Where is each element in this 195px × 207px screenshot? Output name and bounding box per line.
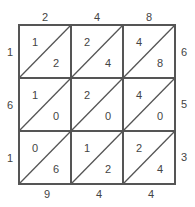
cell-tens: 2 xyxy=(133,142,145,154)
top-digit: 4 xyxy=(90,11,104,23)
cell-ones: 0 xyxy=(102,110,114,122)
cell-tens: 1 xyxy=(29,89,41,101)
top-digit: 2 xyxy=(38,11,52,23)
right-digit: 6 xyxy=(177,46,191,58)
cell-ones: 4 xyxy=(102,57,114,69)
right-digit: 3 xyxy=(177,151,191,163)
left-digit: 6 xyxy=(3,99,17,111)
cell-tens: 4 xyxy=(133,36,145,48)
cell-ones: 4 xyxy=(154,163,166,175)
cell-ones: 2 xyxy=(102,163,114,175)
cell-tens: 4 xyxy=(133,89,145,101)
cell-tens: 0 xyxy=(29,142,41,154)
cell-tens: 1 xyxy=(81,142,93,154)
left-digit: 1 xyxy=(3,152,17,164)
cell-tens: 2 xyxy=(81,89,93,101)
left-digit: 1 xyxy=(3,46,17,58)
top-digit: 8 xyxy=(142,11,156,23)
bottom-digit: 9 xyxy=(40,188,54,200)
cell-tens: 2 xyxy=(81,36,93,48)
right-digit: 5 xyxy=(177,98,191,110)
cell-ones: 0 xyxy=(50,110,62,122)
lattice-grid xyxy=(0,0,195,207)
cell-ones: 2 xyxy=(50,57,62,69)
bottom-digit: 4 xyxy=(144,188,158,200)
cell-ones: 6 xyxy=(50,163,62,175)
bottom-digit: 4 xyxy=(92,188,106,200)
cell-ones: 0 xyxy=(154,110,166,122)
cell-tens: 1 xyxy=(29,36,41,48)
cell-ones: 8 xyxy=(154,57,166,69)
